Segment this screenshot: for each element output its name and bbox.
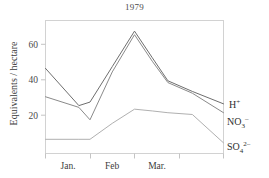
series-label-no3-sub: 3: [241, 122, 245, 130]
x-tick-label-feb: Feb: [105, 161, 120, 171]
series-label-so4-main: SO: [227, 141, 240, 152]
plot-frame: [46, 21, 224, 154]
series-label-h-sup: +: [236, 98, 240, 106]
x-tick-label-mar: Mar.: [148, 161, 166, 171]
chart-figure: 1979 Equivalents / hectare 60 40 20 Jan.…: [0, 0, 269, 178]
series-label-so4-sup: 2–: [243, 140, 251, 148]
series-label-so4: SO42–: [227, 140, 251, 155]
series-line-h: [46, 31, 224, 105]
y-tick-label-40: 40: [29, 75, 39, 85]
series-label-no3-sup: –: [244, 115, 249, 123]
series-label-so4-sub: 4: [240, 147, 244, 155]
series-label-h: H+: [229, 98, 240, 110]
plot-area: 60 40 20 Jan. Feb Mar. H+ NO3– SO42–: [0, 0, 269, 178]
series-line-no3: [46, 35, 224, 120]
y-tick-label-60: 60: [29, 40, 39, 50]
series-label-h-main: H: [229, 99, 236, 110]
series-label-no3: NO3–: [227, 115, 249, 130]
series-line-so4: [46, 109, 224, 143]
x-tick-label-jan: Jan.: [60, 161, 75, 171]
series-label-no3-main: NO: [227, 116, 241, 127]
y-tick-label-20: 20: [29, 111, 39, 121]
